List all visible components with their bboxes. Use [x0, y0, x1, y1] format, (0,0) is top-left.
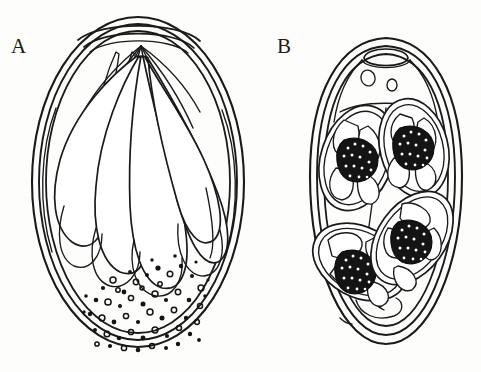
panel-label-b: B	[277, 36, 292, 57]
egg-b-residual-body-1	[337, 138, 378, 182]
panel-label-a: A	[11, 36, 27, 57]
egg-b-residual-body-3	[335, 250, 376, 294]
egg-b-polar-granule-2	[387, 79, 397, 91]
figure-container: A B	[0, 0, 481, 372]
figure-line-art	[0, 0, 481, 372]
egg-a-group	[32, 17, 244, 352]
egg-b-group	[299, 38, 470, 344]
egg-b-polar-granule-1	[359, 68, 377, 88]
egg-b-residual-body-2	[393, 126, 434, 170]
egg-b-micropyle-cap-rim	[362, 60, 410, 68]
egg-b-residual-body-4	[391, 220, 432, 264]
